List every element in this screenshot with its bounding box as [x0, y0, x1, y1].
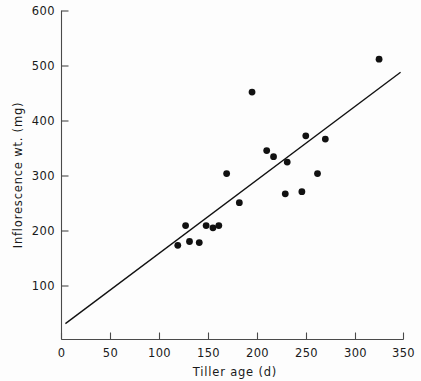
x-axis-title: Tiller age (d): [192, 365, 277, 379]
data-point: [210, 224, 217, 231]
x-tick-label-200: 200: [246, 346, 269, 360]
data-points-layer: [174, 56, 382, 249]
data-point: [174, 242, 181, 249]
y-axis-title: Inflorescence wt. (mg): [11, 102, 25, 249]
y-tick-label-100: 100: [32, 279, 55, 293]
data-point: [302, 132, 309, 139]
y-tick-label-400: 400: [32, 114, 55, 128]
x-tick-label-300: 300: [344, 346, 367, 360]
trend-line: [65, 72, 400, 323]
x-axis-tick-labels: 0 50 100 150 200 250 300 350: [58, 346, 415, 360]
data-point: [196, 239, 203, 246]
data-point: [376, 56, 383, 63]
y-tick-label-200: 200: [32, 224, 55, 238]
x-tick-label-150: 150: [197, 346, 220, 360]
data-point: [284, 159, 291, 166]
data-point: [249, 89, 256, 96]
scatter-plot-figure: 600 500 400 300 200 100 0 50 100 150 200…: [0, 0, 421, 381]
x-tick-label-0: 0: [58, 346, 66, 360]
axes-group: [62, 11, 404, 340]
data-point: [215, 222, 222, 229]
data-point: [182, 222, 189, 229]
data-point: [186, 238, 193, 245]
x-tick-label-50: 50: [103, 346, 118, 360]
data-point: [236, 199, 243, 206]
data-point: [314, 170, 321, 177]
data-point: [282, 190, 289, 197]
x-axis-ticks: [62, 333, 404, 340]
y-axis-ticks: [62, 11, 69, 286]
data-point: [223, 170, 230, 177]
y-tick-label-600: 600: [32, 4, 55, 18]
x-tick-label-250: 250: [295, 346, 318, 360]
data-point: [322, 136, 329, 143]
data-point: [270, 153, 277, 160]
x-tick-label-100: 100: [148, 346, 171, 360]
plot-canvas: 600 500 400 300 200 100 0 50 100 150 200…: [0, 0, 421, 381]
x-tick-label-350: 350: [392, 346, 415, 360]
data-point: [298, 188, 305, 195]
y-axis-tick-labels: 600 500 400 300 200 100: [32, 4, 55, 293]
data-point: [203, 222, 210, 229]
y-tick-label-500: 500: [32, 59, 55, 73]
data-point: [263, 147, 270, 154]
y-tick-label-300: 300: [32, 169, 55, 183]
